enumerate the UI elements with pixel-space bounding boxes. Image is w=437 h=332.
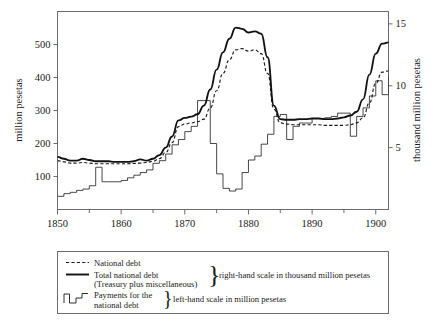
left-axis-ticks <box>54 45 58 177</box>
x-axis-tick-labels: 185018601870188018901900 <box>47 218 386 229</box>
x-tick-label: 1870 <box>174 218 195 229</box>
legend-swatch-step-line <box>64 294 88 304</box>
x-tick-label: 1890 <box>302 218 323 229</box>
legend-label-total-national-debt: Total national debt <box>94 270 159 280</box>
right-tick-label: 15 <box>396 18 407 29</box>
left-axis-tick-labels: 100200300400500 <box>35 39 51 182</box>
legend-note-right-scale: right-hand scale in thousand million pes… <box>219 270 371 280</box>
right-axis-title: thousand million pesetas <box>411 58 422 162</box>
right-axis-tick-labels: 51015 <box>396 18 407 153</box>
series-payments-for-the-national-debt <box>58 75 389 196</box>
right-tick-label: 10 <box>396 80 407 91</box>
legend-sublabel-total-national-debt: (Treasury plus miscellaneous) <box>94 279 197 289</box>
national-debt-chart: 100200300400500 51015 185018601870188018… <box>0 0 437 332</box>
right-tick-label: 5 <box>396 142 401 153</box>
x-tick-label: 1860 <box>111 218 132 229</box>
left-tick-label: 400 <box>35 72 51 83</box>
legend-sublabel-payments: national debt <box>94 300 139 310</box>
left-tick-label: 300 <box>35 105 51 116</box>
x-tick-label: 1850 <box>47 218 68 229</box>
legend-label-national-debt: National debt <box>94 258 141 268</box>
right-axis-ticks <box>389 24 393 148</box>
x-tick-label: 1880 <box>238 218 259 229</box>
x-tick-label: 1900 <box>365 218 386 229</box>
legend-brace-left-scale: } <box>163 287 173 309</box>
legend-note-left-scale: left-hand scale in million pesetas <box>173 294 287 304</box>
legend-label-payments: Payments for the <box>94 290 152 300</box>
chart-figure: 100200300400500 51015 185018601870188018… <box>0 0 437 332</box>
series-total-national-debt <box>58 28 389 162</box>
left-tick-label: 100 <box>35 171 51 182</box>
left-tick-label: 200 <box>35 138 51 149</box>
left-axis-title: million pesetas <box>13 78 24 141</box>
series-national-debt <box>58 49 389 164</box>
x-axis-ticks <box>58 210 376 215</box>
left-tick-label: 500 <box>35 39 51 50</box>
